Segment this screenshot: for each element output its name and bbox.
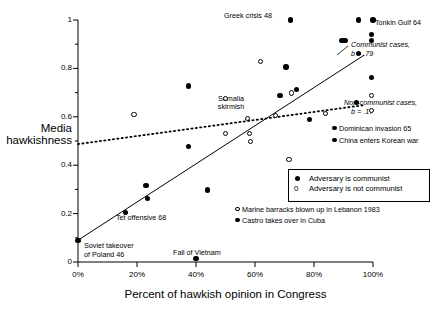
data-point-communist <box>356 17 361 22</box>
annotation-greek-crisis: Greek crisis 48 <box>224 11 272 20</box>
data-point-communist <box>186 83 191 88</box>
data-point-communist <box>75 238 80 243</box>
y-axis-title-line1: Media <box>0 122 72 135</box>
ytick-label-0.4: 0.4 <box>52 160 72 169</box>
data-point-not-communist <box>247 131 252 136</box>
data-point-communist <box>193 256 198 261</box>
data-point-communist <box>370 17 375 22</box>
xtick-label-100: 100% <box>357 270 389 279</box>
ytick-label-0: 0 <box>60 257 72 266</box>
annotation-marker-marine-barracks <box>235 207 240 212</box>
annotation-marine-barracks: Marine barracks blown up in Lebanon 1983 <box>242 205 380 214</box>
data-point-communist <box>123 210 128 215</box>
data-point-communist <box>342 38 347 43</box>
xtick-label-80: 80% <box>300 270 328 279</box>
annotation-marker-china-korea <box>332 138 337 143</box>
annotation-marker-castro <box>235 218 240 223</box>
annotation-dominican-invasion: Dominican invasion 65 <box>339 124 411 133</box>
x-axis-title: Percent of hawkish opinion in Congress <box>78 288 373 300</box>
data-point-communist <box>288 17 293 22</box>
annotation-castro-cuba: Castro takes over in Cuba <box>242 216 325 225</box>
annotation-tonkin-gulf: Tonkin Gulf 64 <box>375 18 421 27</box>
fit-label-communist-b: b = .79 <box>351 50 373 59</box>
xtick-label-0: 0% <box>64 270 92 279</box>
data-point-communist <box>283 64 288 69</box>
annotation-marker-dominican <box>332 126 337 131</box>
data-point-communist <box>277 93 282 98</box>
annotation-china-korean-war: China enters Korean war <box>339 136 419 145</box>
data-point-not-communist <box>223 131 228 136</box>
legend-label-communist: Adversary is communist <box>309 174 390 183</box>
data-point-not-communist <box>223 96 228 101</box>
data-point-not-communist <box>131 112 136 117</box>
ytick-label-0.8: 0.8 <box>52 63 72 72</box>
legend-marker-not-communist: 0 <box>294 185 298 193</box>
data-point-communist <box>356 51 361 56</box>
ytick-label-0.6: 0.6 <box>52 112 72 121</box>
xtick-label-60: 60% <box>241 270 269 279</box>
data-point-communist <box>143 183 148 188</box>
data-point-not-communist <box>286 157 291 162</box>
annotation-somalia-line2: skirmish <box>209 103 253 111</box>
x-ticks <box>78 262 373 267</box>
chart-figure: 1 0.8 0.6 0.4 0.2 0 0% 20% 40% 60% 80% 1… <box>0 0 434 311</box>
legend-marker-communist <box>295 176 300 181</box>
y-axis-title-line2: hawkishness <box>0 134 72 147</box>
leader-line-communist <box>337 46 348 55</box>
annotation-soviet-takeover-line1: Soviet takeover <box>84 241 134 250</box>
xtick-label-20: 20% <box>123 270 151 279</box>
annotation-soviet-takeover-line2: of Poland 46 <box>84 250 124 259</box>
ytick-label-1: 1 <box>60 15 72 24</box>
ytick-label-0.2: 0.2 <box>52 209 72 218</box>
xtick-label-40: 40% <box>182 270 210 279</box>
legend-label-not-communist: Adversary is not communist <box>309 184 402 193</box>
